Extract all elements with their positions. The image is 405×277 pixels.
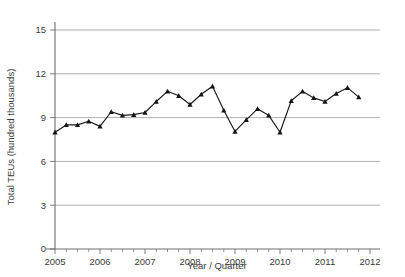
x-tick-label-2007: 2007 [134,256,155,267]
x-tick-label-2005: 2005 [44,256,65,267]
y-tick-label-9: 9 [41,112,46,123]
x-tick-label-2011: 2011 [315,256,335,267]
x-tick-label-2012: 2012 [359,256,380,267]
y-tick-label-12: 12 [35,68,46,79]
x-tick-label-2010: 2010 [269,256,290,267]
x-tick-label-2006: 2006 [89,256,110,267]
chart-background [0,0,405,277]
y-tick-label-15: 15 [35,24,46,35]
y-tick-label-3: 3 [41,200,46,211]
chart-container: 03691215 2005200620072008200920102011201… [0,0,405,277]
y-axis-title: Total TEUs (hundred thousands) [5,69,16,206]
y-tick-label-6: 6 [41,156,46,167]
line-chart: 03691215 2005200620072008200920102011201… [0,0,405,277]
y-tick-label-0: 0 [41,243,46,254]
x-axis-title: Year / Quarter [187,260,246,271]
